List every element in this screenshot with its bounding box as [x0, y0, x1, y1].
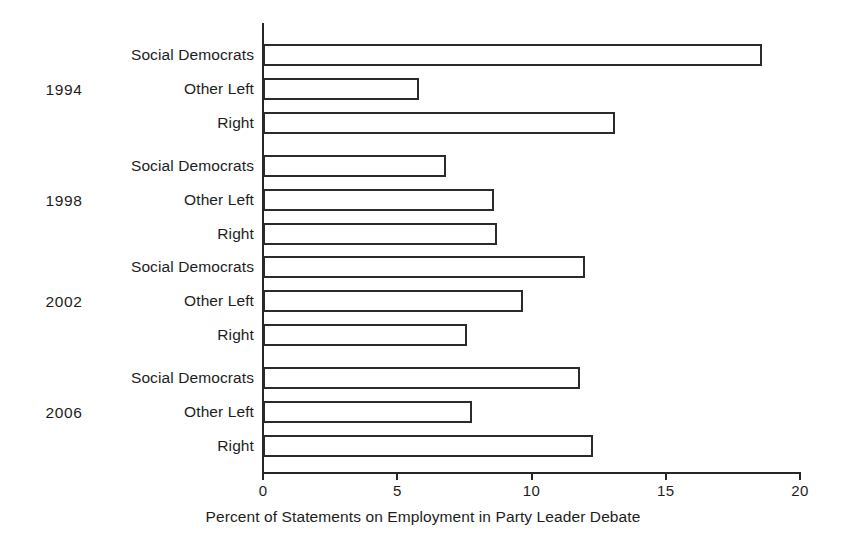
x-tick-15	[665, 472, 667, 480]
x-tick-label-15: 15	[657, 482, 675, 499]
group-label-2002: 2002	[26, 293, 102, 311]
bar-chart: Social DemocratsOther LeftRightSocial De…	[0, 0, 846, 559]
x-tick-20	[799, 472, 801, 480]
bar-1998-other-left	[263, 189, 494, 211]
x-tick-label-20: 20	[791, 482, 809, 499]
group-label-2006: 2006	[26, 404, 102, 422]
category-label-text: Social Democrats	[0, 46, 254, 64]
category-label-2006-right: Right	[0, 435, 254, 457]
category-label-text: Social Democrats	[0, 258, 254, 276]
bar-2006-other-left	[263, 401, 472, 423]
category-label-text: Right	[0, 326, 254, 344]
category-label-text: Right	[0, 114, 254, 132]
bar-1998-right	[263, 223, 497, 245]
bar-1994-other-left	[263, 78, 419, 100]
bar-1994-right	[263, 112, 615, 134]
x-axis-title: Percent of Statements on Employment in P…	[0, 508, 846, 526]
category-label-2002-social-democrats: Social Democrats	[0, 256, 254, 278]
x-tick-5	[396, 472, 398, 480]
group-label-1998: 1998	[26, 192, 102, 210]
bar-2002-right	[263, 324, 467, 346]
bar-1994-social-democrats	[263, 44, 762, 66]
x-tick-0	[262, 472, 264, 480]
bar-2006-social-democrats	[263, 367, 580, 389]
x-tick-label-0: 0	[259, 482, 268, 499]
category-label-1998-social-democrats: Social Democrats	[0, 155, 254, 177]
x-tick-10	[531, 472, 533, 480]
bar-2006-right	[263, 435, 593, 457]
category-label-text: Right	[0, 437, 254, 455]
bar-2002-social-democrats	[263, 256, 585, 278]
x-tick-label-5: 5	[393, 482, 402, 499]
category-label-text: Right	[0, 225, 254, 243]
group-label-1994: 1994	[26, 81, 102, 99]
category-label-1994-right: Right	[0, 112, 254, 134]
category-label-2006-social-democrats: Social Democrats	[0, 367, 254, 389]
category-label-text: Social Democrats	[0, 369, 254, 387]
category-label-1998-right: Right	[0, 223, 254, 245]
category-label-2002-right: Right	[0, 324, 254, 346]
category-label-1994-social-democrats: Social Democrats	[0, 44, 254, 66]
category-label-text: Social Democrats	[0, 157, 254, 175]
bar-2002-other-left	[263, 290, 523, 312]
x-tick-label-10: 10	[523, 482, 541, 499]
bar-1998-social-democrats	[263, 155, 446, 177]
